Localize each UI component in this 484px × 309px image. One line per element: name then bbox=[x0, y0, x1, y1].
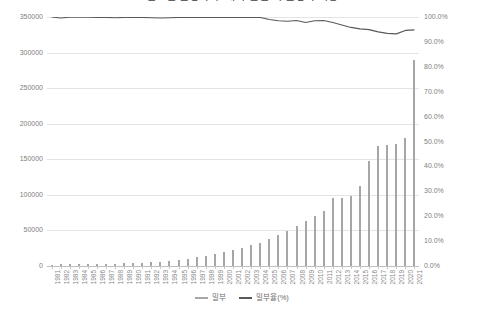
x-axis-tick-label: 2017 bbox=[381, 270, 388, 284]
x-axis-tick-label: 2014 bbox=[354, 270, 361, 284]
y-axis-right-tick: 30.0% bbox=[424, 187, 480, 194]
x-axis-tick-label: 1988 bbox=[118, 270, 125, 284]
x-axis-tick bbox=[369, 266, 370, 269]
x-axis-tick bbox=[88, 266, 89, 269]
x-axis-tick bbox=[278, 266, 279, 269]
x-axis-tick bbox=[342, 266, 343, 269]
y-axis-right-tick: 80.0% bbox=[424, 63, 480, 70]
plot-area bbox=[47, 17, 419, 266]
x-axis-tick bbox=[79, 266, 80, 269]
x-axis-tick bbox=[61, 266, 62, 269]
y-axis-left-tick: 250000 bbox=[0, 84, 43, 91]
y-axis-left-tick: 300000 bbox=[0, 49, 43, 56]
x-axis-tick bbox=[106, 266, 107, 269]
x-axis-tick-label: 1981 bbox=[55, 270, 62, 284]
x-axis-tick bbox=[242, 266, 243, 269]
x-axis-tick bbox=[188, 266, 189, 269]
x-axis-tick bbox=[97, 266, 98, 269]
x-axis-tick-label: 2019 bbox=[399, 270, 406, 284]
x-axis-tick bbox=[124, 266, 125, 269]
x-axis-tick-label: 1995 bbox=[182, 270, 189, 284]
chart-title: 연도별 출생아 수 대비 혼인 외 출생아 비중 bbox=[0, 0, 484, 2]
y-axis-right-tick: 90.0% bbox=[424, 38, 480, 45]
x-axis-tick bbox=[233, 266, 234, 269]
y-axis-right-tick: 100.0% bbox=[424, 13, 480, 20]
x-axis-tick bbox=[269, 266, 270, 269]
x-axis-tick bbox=[297, 266, 298, 269]
x-axis-tick-label: 2009 bbox=[309, 270, 316, 284]
x-axis-tick-label: 2008 bbox=[300, 270, 307, 284]
x-axis-tick bbox=[251, 266, 252, 269]
x-axis-tick bbox=[260, 266, 261, 269]
x-axis-tick bbox=[387, 266, 388, 269]
x-axis-tick bbox=[169, 266, 170, 269]
x-axis-tick-label: 2002 bbox=[245, 270, 252, 284]
y-axis-left-tick: 0 bbox=[0, 262, 43, 269]
legend-item[interactable]: 밀부 bbox=[195, 294, 226, 302]
y-axis-right-tick: 50.0% bbox=[424, 138, 480, 145]
x-axis-tick bbox=[333, 266, 334, 269]
legend-swatch-icon bbox=[239, 297, 252, 299]
legend-label: 밀부율(%) bbox=[256, 294, 289, 302]
x-axis-tick bbox=[133, 266, 134, 269]
x-axis-tick bbox=[197, 266, 198, 269]
x-axis-tick-label: 1993 bbox=[163, 270, 170, 284]
x-axis-tick bbox=[52, 266, 53, 269]
x-axis-tick bbox=[215, 266, 216, 269]
x-axis-tick-label: 2020 bbox=[408, 270, 415, 284]
x-axis-tick-label: 1990 bbox=[136, 270, 143, 284]
x-axis-tick-label: 1989 bbox=[127, 270, 134, 284]
legend-item[interactable]: 밀부율(%) bbox=[239, 294, 289, 302]
y-axis-right-tick: 40.0% bbox=[424, 162, 480, 169]
x-axis-tick bbox=[351, 266, 352, 269]
x-axis-tick bbox=[405, 266, 406, 269]
x-axis-tick-label: 1998 bbox=[209, 270, 216, 284]
chart-container: 연도별 출생아 수 대비 혼인 외 출생아 비중 050000100000150… bbox=[0, 0, 484, 309]
x-axis-tick bbox=[287, 266, 288, 269]
x-axis-tick-label: 2015 bbox=[363, 270, 370, 284]
y-axis-right-tick: 60.0% bbox=[424, 113, 480, 120]
x-axis-tick bbox=[324, 266, 325, 269]
x-axis-tick-label: 2016 bbox=[372, 270, 379, 284]
x-axis-tick bbox=[151, 266, 152, 269]
x-axis-tick-label: 2013 bbox=[345, 270, 352, 284]
y-axis-right-tick: 0.0% bbox=[424, 262, 480, 269]
x-axis-tick-label: 2000 bbox=[227, 270, 234, 284]
x-axis-tick-label: 1991 bbox=[145, 270, 152, 284]
x-axis-tick-label: 2012 bbox=[336, 270, 343, 284]
x-axis-tick bbox=[396, 266, 397, 269]
y-axis-left-tick: 50000 bbox=[0, 226, 43, 233]
y-axis-right-tick: 10.0% bbox=[424, 237, 480, 244]
x-axis-tick-label: 1985 bbox=[91, 270, 98, 284]
x-axis-tick bbox=[70, 266, 71, 269]
x-axis-tick-label: 1983 bbox=[73, 270, 80, 284]
x-axis-tick-label: 2005 bbox=[272, 270, 279, 284]
x-axis-tick-label: 2003 bbox=[254, 270, 261, 284]
x-axis-tick bbox=[115, 266, 116, 269]
y-axis-left-tick: 350000 bbox=[0, 13, 43, 20]
x-axis-tick-label: 1992 bbox=[154, 270, 161, 284]
x-axis-tick bbox=[160, 266, 161, 269]
x-axis-tick bbox=[378, 266, 379, 269]
legend-label: 밀부 bbox=[212, 294, 226, 302]
legend-swatch-icon bbox=[195, 297, 208, 299]
x-axis-tick-label: 1999 bbox=[218, 270, 225, 284]
y-axis-left-tick: 200000 bbox=[0, 120, 43, 127]
x-axis-tick bbox=[206, 266, 207, 269]
x-axis-tick-label: 2018 bbox=[390, 270, 397, 284]
x-axis-tick-label: 2004 bbox=[263, 270, 270, 284]
x-axis-tick-label: 2006 bbox=[281, 270, 288, 284]
x-axis-tick-label: 1994 bbox=[172, 270, 179, 284]
x-axis-tick-label: 2001 bbox=[236, 270, 243, 284]
x-axis-tick bbox=[315, 266, 316, 269]
x-axis-tick-label: 1984 bbox=[82, 270, 89, 284]
x-axis-tick-label: 1987 bbox=[109, 270, 116, 284]
x-axis-tick-label: 1996 bbox=[191, 270, 198, 284]
chart-legend: 밀부밀부율(%) bbox=[0, 291, 484, 305]
y-axis-left-tick: 100000 bbox=[0, 191, 43, 198]
x-axis-tick bbox=[224, 266, 225, 269]
x-axis-tick-label: 2011 bbox=[327, 270, 334, 284]
x-axis-tick-label: 1986 bbox=[100, 270, 107, 284]
x-axis-labels: 1981198219831984198519861987198819891990… bbox=[47, 266, 419, 288]
rate-line bbox=[52, 17, 415, 34]
